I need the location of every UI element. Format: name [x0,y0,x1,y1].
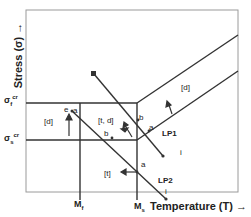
point-a-lp1-label: a [149,124,153,132]
diagram-svg [0,0,251,217]
tick-sup: cr [12,94,18,100]
finish-boundary-diagonal [137,35,238,103]
tick-sigma-f-cr: σfcr [4,96,18,105]
plot-frame [26,10,238,192]
y-axis-title: Stress (σ) → [13,16,24,96]
point-i-lp1-label: i [180,149,182,157]
lp2-label: LP2 [158,177,173,185]
point-a-mid-label: a [141,161,145,169]
tick-m-f: Mf [74,200,84,209]
load-path-lp1 [94,74,163,156]
arrow-head-lp2-icon [121,128,128,132]
lp1-end-marker [91,71,96,76]
point-e-label: e [64,106,68,114]
tick-sup: cr [14,132,20,138]
arrow-head-up-right-icon [166,101,171,107]
region-d-right: [d] [181,84,190,92]
arrow-head-diag-icon [123,122,128,128]
point-b-mid-label: b [139,114,143,122]
lp1-start-marker [161,154,164,157]
region-d-left: [d] [44,118,53,126]
tick-sigma-s-cr: σscr [4,134,19,143]
tick-sub: s [10,139,13,145]
tick-sub: s [142,207,145,213]
x-axis-title: Temperature (T) → [150,201,247,212]
stress-temperature-diagram: Stress (σ) → Temperature (T) → σfcr σscr… [0,0,251,217]
region-t-d: [t, d] [98,117,114,125]
point-b-left-label: b [104,130,108,138]
region-t: [t] [104,170,111,178]
tick-base: M [74,199,82,209]
tick-sub: f [10,101,12,107]
arrow-head-left-icon [121,169,126,175]
tick-base: M [134,201,142,211]
point-i-lp2-label: i [165,188,167,196]
point-a-top-label: a [73,107,77,115]
tick-sub: f [82,205,84,211]
arrow-head-up-icon [66,114,72,120]
arrows [66,101,172,175]
tick-m-s: Ms [134,202,145,211]
arrow-up-d-right [169,105,172,114]
lp1-label: LP1 [162,130,177,138]
point-b-marker [111,137,114,140]
